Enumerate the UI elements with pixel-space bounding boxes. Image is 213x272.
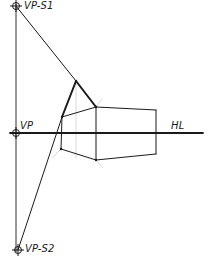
- label-horizon-line: HL: [171, 121, 185, 131]
- vp-s1-to-apex: [16, 6, 76, 81]
- vp-s2-to-gable: [18, 117, 62, 250]
- right-top: [96, 107, 156, 110]
- corner-dot: [75, 80, 77, 82]
- perspective-diagram: VP-S1 VP VP-S2 HL: [0, 0, 213, 272]
- gable-right-edge: [76, 81, 96, 107]
- front-left-bottom: [61, 149, 96, 160]
- corner-guide-up: [96, 99, 102, 107]
- label-vp-s2: VP-S2: [25, 244, 55, 254]
- corner-dot: [95, 106, 97, 108]
- vp-s2-marker-icon: [12, 244, 24, 256]
- front-left-top: [62, 107, 96, 117]
- vp-s1-marker-icon: [10, 0, 22, 12]
- right-bottom: [96, 154, 156, 160]
- label-vp-s1: VP-S1: [24, 1, 54, 11]
- corner-dot: [61, 116, 63, 118]
- label-vp: VP: [20, 121, 33, 131]
- corner-dot: [60, 148, 62, 150]
- corner-dot: [95, 159, 97, 161]
- perspective-drawing: [0, 0, 213, 272]
- front-left-vertical: [61, 117, 62, 149]
- left-guide-down: [52, 149, 61, 158]
- corner-guide-down: [96, 160, 103, 168]
- gable-left-edge: [62, 81, 76, 117]
